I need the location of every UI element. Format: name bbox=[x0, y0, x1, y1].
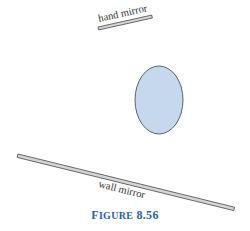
wall-mirror bbox=[17, 154, 234, 211]
figure-caption: FIGURE 8.56 bbox=[0, 208, 250, 223]
caption-number: 8.56 bbox=[137, 208, 159, 222]
caption-prefix-small: IGURE bbox=[99, 210, 133, 221]
diagram-canvas: hand mirror wall mirror bbox=[0, 0, 250, 231]
caption-prefix-big: F bbox=[91, 208, 99, 222]
object-ellipse bbox=[135, 66, 183, 134]
